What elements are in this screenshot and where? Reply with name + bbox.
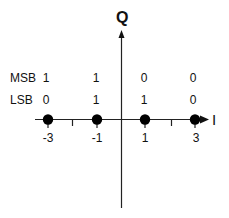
- constellation-point: [92, 114, 102, 124]
- msb-row-label: MSB: [10, 72, 36, 84]
- tick-label: 1: [135, 132, 155, 144]
- q-axis-label: Q: [116, 10, 128, 26]
- tick-label: -3: [38, 132, 58, 144]
- lsb-bit: 1: [89, 94, 103, 106]
- constellation-diagram: Q I MSB LSB 1 1 0 0 0 1 1 0 -3 -1 1 3: [0, 0, 229, 218]
- msb-bit: 0: [137, 72, 151, 84]
- tick-label: 3: [186, 132, 206, 144]
- lsb-bit: 0: [186, 94, 200, 106]
- lsb-bit: 0: [39, 94, 53, 106]
- q-axis-arrowhead-icon: [119, 30, 125, 38]
- constellation-point: [190, 114, 200, 124]
- tick-label: -1: [87, 132, 107, 144]
- constellation-point: [140, 114, 150, 124]
- msb-bit: 1: [89, 72, 103, 84]
- lsb-bit: 1: [137, 94, 151, 106]
- lsb-row-label: LSB: [10, 94, 33, 106]
- axes-graphic: [0, 0, 229, 218]
- msb-bit: 0: [186, 72, 200, 84]
- msb-bit: 1: [39, 72, 53, 84]
- i-axis-arrowhead-icon: [200, 116, 209, 124]
- constellation-point: [43, 114, 53, 124]
- i-axis-label: I: [212, 112, 216, 128]
